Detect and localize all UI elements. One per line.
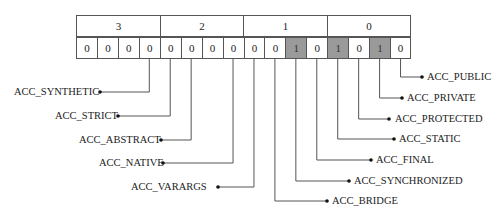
flag-label-acc-synthetic: ACC_SYNTHETIC bbox=[14, 86, 99, 98]
connector-dot-icon bbox=[216, 185, 220, 189]
connector-dot-icon bbox=[387, 117, 391, 121]
connector-line bbox=[100, 59, 149, 92]
connector-dot-icon bbox=[347, 179, 351, 183]
connector-line bbox=[317, 59, 371, 160]
connector-dot-icon bbox=[369, 158, 373, 162]
flag-label-acc-varargs: ACC_VARARGS bbox=[131, 181, 207, 193]
flag-label-acc-protected: ACC_PROTECTED bbox=[395, 113, 483, 125]
connector-line bbox=[275, 59, 327, 201]
flag-label-acc-native: ACC_NATIVE bbox=[99, 157, 164, 169]
connector-line bbox=[118, 59, 170, 116]
connector-dot-icon bbox=[400, 96, 404, 100]
connector-dot-icon bbox=[392, 137, 396, 141]
connector-line bbox=[218, 59, 254, 187]
connector-line bbox=[296, 59, 349, 181]
flag-label-acc-synchronized: ACC_SYNCHRONIZED bbox=[354, 175, 463, 187]
connector-dot-icon bbox=[420, 75, 424, 79]
connector-line bbox=[163, 59, 233, 163]
connector-line bbox=[338, 59, 394, 139]
flag-label-acc-bridge: ACC_BRIDGE bbox=[332, 195, 398, 207]
flag-label-acc-strict: ACC_STRICT bbox=[55, 110, 118, 122]
flag-label-acc-public: ACC_PUBLIC bbox=[427, 71, 491, 83]
connector-line bbox=[401, 59, 422, 77]
flag-label-acc-static: ACC_STATIC bbox=[399, 133, 461, 145]
connector-line bbox=[359, 59, 389, 119]
connector-dot-icon bbox=[325, 199, 329, 203]
connector-line bbox=[161, 59, 191, 140]
connector-line bbox=[380, 59, 402, 98]
flag-label-acc-private: ACC_PRIVATE bbox=[407, 92, 476, 104]
flag-label-acc-final: ACC_FINAL bbox=[376, 154, 434, 166]
access-flags-diagram: 3 2 1 0 0000000000101010 ACC_SYNTHETICAC… bbox=[0, 0, 496, 219]
flag-label-acc-abstract: ACC_ABSTRACT bbox=[79, 134, 161, 146]
